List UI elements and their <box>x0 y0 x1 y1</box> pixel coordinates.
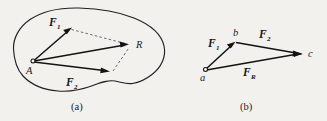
label-f2b-subscript: 2 <box>266 35 271 43</box>
label-f2b: F <box>258 28 267 40</box>
vector-f1b-arrowhead <box>227 42 236 49</box>
label-point-a-lower: a <box>200 72 205 83</box>
vector-resultant-arrowhead <box>120 42 129 48</box>
label-point-c: c <box>308 48 313 59</box>
label-f1: F <box>48 16 57 28</box>
point-a-lower-marker <box>204 68 208 72</box>
construction-line-f1-to-r <box>72 30 128 45</box>
label-fr-subscript: R <box>250 73 256 81</box>
label-f1b: F <box>207 37 216 49</box>
label-point-b: b <box>233 27 238 38</box>
label-fr: F <box>242 66 251 78</box>
caption-panel-a: (a) <box>71 101 83 113</box>
vector-f2-shaft <box>34 62 104 71</box>
label-point-a: A <box>25 65 33 76</box>
label-f2: F <box>65 76 74 88</box>
vector-f2b-shaft <box>236 43 296 54</box>
label-resultant-r: R <box>135 39 143 50</box>
vector-resultant-shaft <box>34 46 122 62</box>
label-f1b-subscript: 1 <box>216 44 220 52</box>
figure-svg: F 1 F 2 R A (a) F 1 F 2 <box>0 0 327 121</box>
caption-panel-b: (b) <box>240 101 253 113</box>
figure-container: F 1 F 2 R A (a) F 1 F 2 <box>0 0 327 121</box>
vector-fr-arrowhead <box>293 51 303 57</box>
construction-line-f2-to-r <box>113 49 129 72</box>
panel-b: F 1 F 2 F R a b c (b) <box>200 27 313 113</box>
label-f1-subscript: 1 <box>57 23 61 31</box>
label-f2-subscript: 2 <box>73 83 78 91</box>
point-a-marker <box>31 59 35 63</box>
panel-a: F 1 F 2 R A (a) <box>13 8 164 113</box>
vector-f2-arrowhead <box>100 67 110 73</box>
